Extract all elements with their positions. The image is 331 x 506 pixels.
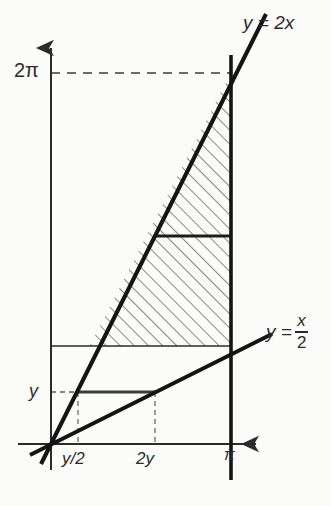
figure-canvas <box>0 0 331 506</box>
label-xhalf-lhs: y = <box>266 322 292 341</box>
fraction-denominator: 2 <box>295 334 308 352</box>
x-axis-tick-label-pi: π <box>224 447 235 463</box>
x-axis-tick-label-y-over-2: y/2 <box>62 450 85 467</box>
x-axis-tick-label-2y: 2y <box>136 450 154 467</box>
label-line-y-equals-x-over-2: y = x 2 <box>266 312 308 352</box>
y-axis-tick-label-y: y <box>29 382 38 400</box>
y-axis-tick-label-2pi: 2π <box>14 60 39 80</box>
fraction-x-over-2: x 2 <box>295 312 308 352</box>
label-line-y-equals-2x: y = 2x <box>243 13 294 32</box>
math-figure: y = 2x y = x 2 2π y π y/2 2y <box>0 0 331 506</box>
line-y-equals-x-over-2 <box>30 334 272 455</box>
fraction-numerator: x <box>295 312 308 330</box>
hatched-region <box>90 73 232 346</box>
